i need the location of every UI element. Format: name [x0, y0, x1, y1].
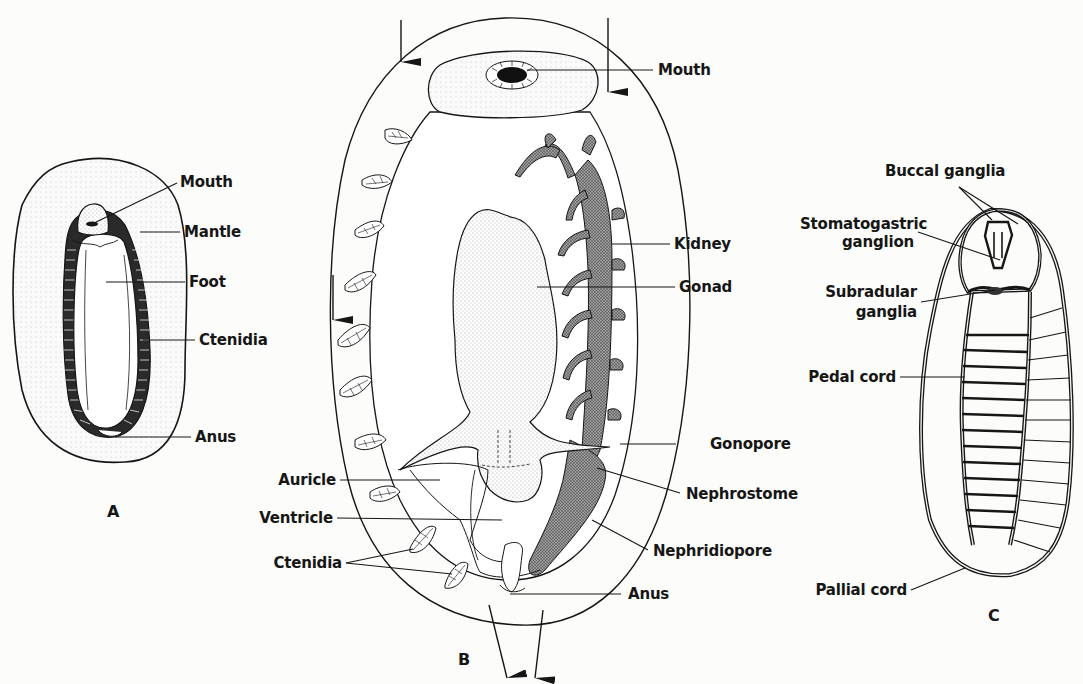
label-c-stomatogastric-2: ganglion: [800, 234, 914, 251]
label-b-nephridiopore: Nephridiopore: [653, 543, 772, 560]
label-b-gonopore: Gonopore: [710, 436, 791, 453]
label-a-anus: Anus: [195, 429, 236, 446]
label-c-buccal-ganglia: Buccal ganglia: [885, 163, 1005, 180]
label-c-subradular-1: Subradular: [810, 284, 917, 301]
label-b-anus: Anus: [628, 586, 669, 603]
label-a-ctenidia: Ctenidia: [199, 332, 268, 349]
label-a-mantle: Mantle: [184, 224, 241, 241]
label-b-nephrostome: Nephrostome: [686, 486, 798, 503]
label-b-mouth: Mouth: [658, 62, 711, 79]
label-b-gonad: Gonad: [679, 279, 732, 296]
figure-letter-c: C: [988, 606, 1000, 625]
label-c-stomatogastric-1: Stomatogastric: [800, 216, 914, 233]
label-c-pedal-cord: Pedal cord: [790, 369, 896, 386]
figure-c-drawing: [921, 210, 1072, 575]
label-a-foot: Foot: [189, 274, 226, 291]
label-b-ctenidia: Ctenidia: [258, 555, 342, 572]
label-b-auricle: Auricle: [262, 472, 336, 489]
label-c-subradular-2: ganglia: [810, 304, 917, 321]
chiton-anatomy-diagram: [0, 0, 1083, 684]
figure-letter-a: A: [107, 502, 119, 521]
label-b-ventricle: Ventricle: [240, 510, 333, 527]
figure-b-drawing: [330, 18, 690, 625]
label-a-mouth: Mouth: [180, 174, 233, 191]
label-b-kidney: Kidney: [674, 236, 731, 253]
figure-c-leaders: [900, 187, 1018, 590]
figure-letter-b: B: [458, 650, 470, 669]
label-c-pallial-cord: Pallial cord: [796, 582, 907, 599]
figure-a-drawing: [13, 159, 187, 463]
